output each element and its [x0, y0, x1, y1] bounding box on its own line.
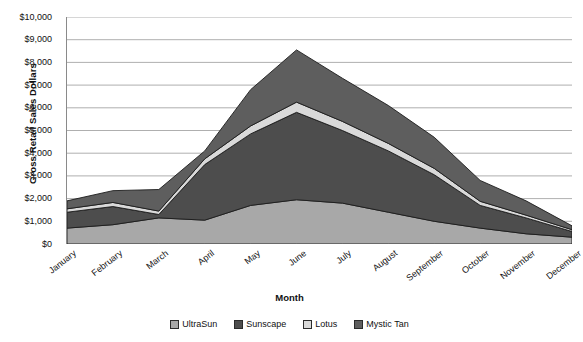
x-axis-tick-label: September	[405, 248, 446, 283]
legend-label: UltraSun	[182, 320, 217, 329]
x-axis-tick-label: October	[460, 248, 491, 276]
x-axis-tick-label: December	[544, 248, 583, 281]
legend-label: Sunscape	[246, 320, 286, 329]
legend-swatch-icon	[303, 320, 312, 329]
legend-item-lotus[interactable]: Lotus	[303, 320, 337, 329]
x-axis-tick-label: January	[47, 248, 78, 276]
legend-swatch-icon	[354, 320, 363, 329]
chart-legend: UltraSunSunscapeLotusMystic Tan	[0, 320, 579, 329]
legend-item-sunscape[interactable]: Sunscape	[234, 320, 286, 329]
x-axis-tick-label: April	[196, 248, 216, 267]
x-axis-tick-label: March	[144, 248, 170, 271]
legend-item-ultrasun[interactable]: UltraSun	[170, 320, 217, 329]
x-axis-title: Month	[0, 292, 579, 303]
legend-swatch-icon	[170, 320, 179, 329]
x-axis-tick-label: November	[498, 248, 537, 281]
x-axis-tick-label: June	[286, 248, 308, 268]
legend-item-mystic-tan[interactable]: Mystic Tan	[354, 320, 408, 329]
x-axis-tick-label: May	[242, 248, 262, 266]
x-axis-tick-label: July	[335, 248, 354, 266]
x-axis-tick-label: August	[371, 248, 399, 273]
legend-label: Lotus	[315, 320, 337, 329]
legend-label: Mystic Tan	[366, 320, 408, 329]
x-axis-tick-label: February	[90, 248, 125, 278]
legend-swatch-icon	[234, 320, 243, 329]
